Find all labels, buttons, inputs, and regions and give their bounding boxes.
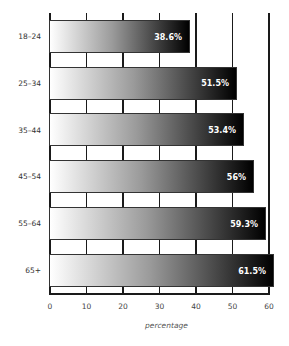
- gridline-10: [86, 13, 88, 294]
- x-tick-label: 0: [48, 302, 53, 311]
- x-tick-label: 60: [264, 302, 274, 311]
- category-label: 18–24: [0, 32, 41, 41]
- data-label: 61.5%: [238, 266, 266, 275]
- x-tick-label: 30: [155, 302, 165, 311]
- data-label: 53.4%: [208, 125, 236, 134]
- category-label: 35–44: [0, 126, 41, 135]
- bar-25-34: 51.5%: [49, 67, 237, 100]
- data-label: 56%: [227, 172, 246, 181]
- gridline-0: [49, 13, 51, 294]
- category-label: 65+: [0, 266, 41, 275]
- gridline-60: [268, 13, 270, 294]
- gridline-40: [195, 13, 197, 294]
- bar-chart: 38.6% 51.5% 53.4% 56% 59.3% 61.5% 18–24 …: [0, 0, 289, 346]
- gridline-20: [122, 13, 124, 294]
- gridline-50: [232, 13, 234, 294]
- x-tick-label: 40: [191, 302, 201, 311]
- bar-45-54: 56%: [49, 160, 254, 193]
- x-tick-label: 10: [82, 302, 92, 311]
- data-label: 59.3%: [230, 219, 258, 228]
- bar-35-44: 53.4%: [49, 113, 244, 146]
- bar-65-plus: 61.5%: [49, 254, 274, 287]
- category-label: 45–54: [0, 172, 41, 181]
- category-label: 55–64: [0, 219, 41, 228]
- bar-55-64: 59.3%: [49, 207, 266, 240]
- data-label: 51.5%: [201, 79, 229, 88]
- x-axis-title: percentage: [145, 321, 188, 330]
- x-tick-label: 50: [228, 302, 238, 311]
- x-axis-line: [49, 293, 270, 295]
- bar-18-24: 38.6%: [49, 20, 190, 53]
- category-label: 25–34: [0, 79, 41, 88]
- data-label: 38.6%: [154, 32, 182, 41]
- x-tick-label: 20: [118, 302, 128, 311]
- gridline-30: [159, 13, 161, 294]
